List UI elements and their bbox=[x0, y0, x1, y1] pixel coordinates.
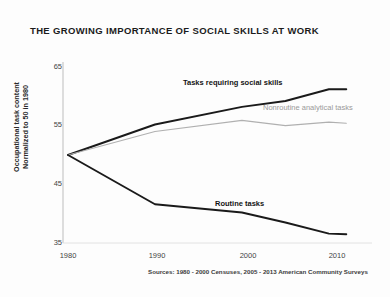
series-line-2 bbox=[68, 155, 346, 234]
plot-area bbox=[0, 0, 390, 297]
source-note: Sources: 1980 - 2000 Censuses, 2005 - 20… bbox=[148, 268, 368, 275]
chart-figure: THE GROWING IMPORTANCE OF SOCIAL SKILLS … bbox=[0, 0, 390, 297]
series-label-nonroutine: Nonroutine analytical tasks bbox=[263, 103, 353, 112]
series-label-routine: Routine tasks bbox=[215, 199, 264, 208]
series-line-1 bbox=[68, 120, 346, 155]
series-line-0 bbox=[68, 89, 346, 155]
series-label-social-skills: Tasks requiring social skills bbox=[183, 78, 283, 87]
